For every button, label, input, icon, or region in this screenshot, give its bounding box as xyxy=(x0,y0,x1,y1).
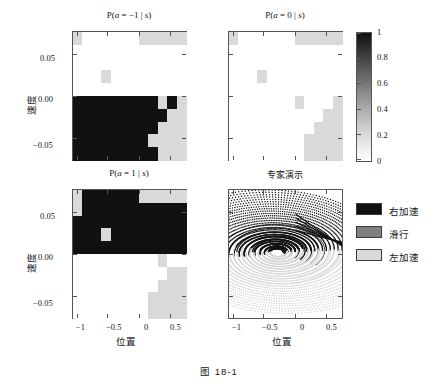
x-tick xyxy=(233,32,234,36)
heatmap-cell xyxy=(177,203,187,216)
x-tick xyxy=(263,32,264,36)
colorbar-tick-mark xyxy=(357,159,361,160)
heatmap-cell xyxy=(333,122,343,135)
legend-label-left-accel: 左加速 xyxy=(389,250,419,264)
x-tick xyxy=(263,190,264,194)
x-tick xyxy=(107,314,108,318)
heatmap-cell xyxy=(177,241,187,254)
legend-label-coast: 滑行 xyxy=(389,227,409,241)
y-tick xyxy=(338,212,342,213)
x-tick xyxy=(77,32,78,36)
y-tick xyxy=(182,96,186,97)
heatmap-cell xyxy=(177,267,187,280)
heatmap-cell xyxy=(177,216,187,229)
y-tick xyxy=(229,212,233,213)
xtick-label-p4-3: 0.5 xyxy=(326,322,337,332)
heatmap-cell xyxy=(177,134,187,147)
figure-mountain-car-policy: P(a = −1 | s) 0.05 0.00 −0.05 速度 P(a = 0… xyxy=(0,0,438,390)
colorbar-tick-02: 0.2 xyxy=(377,130,388,140)
x-tick xyxy=(170,156,171,160)
heatmap-cell xyxy=(177,83,187,96)
ytick-label-1: 0.00 xyxy=(38,94,53,104)
heatmap-cell xyxy=(177,122,187,135)
panel-title-p-a-1: P(a = 1 | s) xyxy=(68,168,190,178)
x-tick xyxy=(295,190,296,194)
ytick-label-2: −0.05 xyxy=(33,140,53,150)
y-tick xyxy=(338,254,342,255)
y-tick xyxy=(73,296,77,297)
x-tick xyxy=(77,190,78,194)
x-tick xyxy=(295,156,296,160)
heatmap-cell xyxy=(333,58,343,71)
panel-title-expert: 专家演示 xyxy=(224,168,346,181)
x-tick xyxy=(326,156,327,160)
heatmap-cell xyxy=(177,109,187,122)
colorbar-tick-mark xyxy=(357,109,361,110)
x-tick xyxy=(77,156,78,160)
y-tick xyxy=(229,96,233,97)
x-tick xyxy=(170,32,171,36)
heatmap-cell xyxy=(177,96,187,109)
colorbar-tick-mark xyxy=(357,134,361,135)
heatmap-cell xyxy=(177,254,187,267)
heatmap-cell xyxy=(177,32,187,45)
heatmap-cell xyxy=(333,109,343,122)
legend-label-right-accel: 右加速 xyxy=(389,204,419,218)
colorbar-gradient xyxy=(357,33,371,161)
xtick-label-p3-3: 0.5 xyxy=(170,322,181,332)
xtick-label-p3-1: −0.5 xyxy=(106,322,121,332)
expert-demo-scatter xyxy=(228,189,343,319)
x-tick xyxy=(295,314,296,318)
xtick-label-p4-0: −1 xyxy=(232,322,241,332)
heatmap-cell xyxy=(177,147,187,160)
y-tick xyxy=(73,138,77,139)
colorbar xyxy=(356,32,372,162)
y-tick xyxy=(182,254,186,255)
x-tick xyxy=(170,314,171,318)
xaxis-label-panel3: 位置 xyxy=(116,334,136,348)
x-tick xyxy=(233,156,234,160)
y-tick xyxy=(73,54,77,55)
x-tick xyxy=(326,32,327,36)
heatmap-p-a-neg1 xyxy=(72,31,187,161)
heatmap-cell xyxy=(333,96,343,109)
figure-caption: 图 18-1 xyxy=(0,364,438,378)
heatmap-cell xyxy=(177,58,187,71)
x-tick xyxy=(107,32,108,36)
y-tick xyxy=(182,296,186,297)
heatmap-cell xyxy=(177,305,187,318)
xtick-label-p3-2: 0 xyxy=(144,322,148,332)
colorbar-tick-0: 0 xyxy=(377,156,381,166)
ytick-label-0: 0.05 xyxy=(40,53,55,63)
heatmap-p-a-1 xyxy=(72,189,187,319)
colorbar-tick-08: 0.8 xyxy=(377,52,388,62)
xtick-label-p3-0: −1 xyxy=(76,322,85,332)
legend-swatch-left-accel xyxy=(356,249,382,261)
y-tick xyxy=(73,212,77,213)
x-tick xyxy=(139,32,140,36)
heatmap-cell xyxy=(177,280,187,293)
y-tick xyxy=(182,138,186,139)
heatmap-p-a-0 xyxy=(228,31,343,161)
heatmap-cell xyxy=(177,228,187,241)
heatmap-cell xyxy=(333,83,343,96)
x-tick xyxy=(107,190,108,194)
y-tick xyxy=(338,54,342,55)
y-tick xyxy=(338,296,342,297)
colorbar-tick-04: 0.4 xyxy=(377,104,388,114)
y-tick xyxy=(73,96,77,97)
heatmap-cell xyxy=(333,70,343,83)
x-tick xyxy=(233,314,234,318)
colorbar-tick-06: 0.6 xyxy=(377,78,388,88)
x-tick xyxy=(263,314,264,318)
xtick-label-p4-1: −0.5 xyxy=(262,322,277,332)
ytick-label-p3-0: 0.05 xyxy=(40,211,55,221)
heatmap-cell xyxy=(333,32,343,45)
legend-swatch-coast xyxy=(356,226,382,238)
trajectory-paths xyxy=(229,190,342,318)
x-tick xyxy=(107,156,108,160)
y-tick xyxy=(182,54,186,55)
heatmap-cell xyxy=(333,134,343,147)
panel-title-p-a-neg1: P(a = −1 | s) xyxy=(68,10,190,20)
colorbar-tick-mark xyxy=(357,83,361,84)
